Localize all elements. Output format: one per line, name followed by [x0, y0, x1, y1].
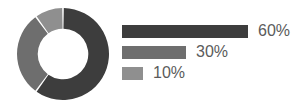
legend-item-1[interactable]: 30%: [122, 45, 228, 59]
legend: 60% 30% 10%: [122, 24, 308, 84]
donut-chart: [17, 8, 109, 100]
legend-swatch-bar-1: [122, 46, 186, 59]
legend-swatch-bar-2: [122, 67, 143, 80]
legend-value-0: 60%: [258, 23, 290, 39]
legend-value-1: 30%: [196, 44, 228, 60]
donut-chart-svg: [17, 8, 109, 100]
legend-value-2: 10%: [153, 65, 185, 81]
legend-item-2[interactable]: 10%: [122, 66, 185, 80]
legend-item-0[interactable]: 60%: [122, 24, 290, 38]
donut-chart-figure: 60% 30% 10%: [0, 0, 308, 107]
donut-slices: [17, 8, 109, 100]
legend-swatch-bar-0: [122, 25, 248, 38]
donut-slice-1[interactable]: [17, 17, 48, 90]
